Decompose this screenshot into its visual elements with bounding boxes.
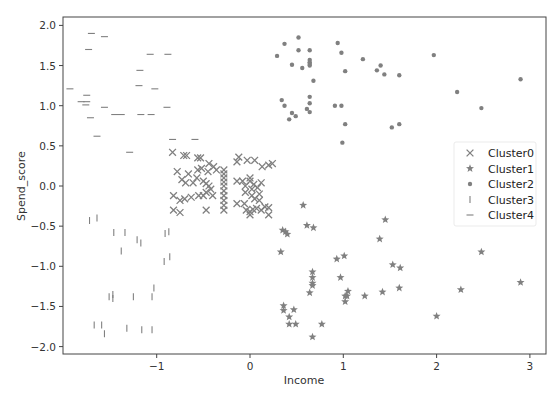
point-cluster2 [308,48,312,52]
point-cluster2 [343,69,347,73]
point-cluster2 [294,114,298,118]
scatter-chart: −10123 −2.0−1.5−1.0−0.50.00.51.01.52.0 I… [0,0,556,397]
point-cluster2 [296,48,300,52]
point-cluster2 [339,104,343,108]
legend: Cluster0Cluster1Cluster2Cluster3Cluster4 [454,142,536,226]
legend-label: Cluster0 [488,147,534,160]
x-axis-label: Income [284,374,325,387]
point-cluster2 [390,125,394,129]
point-cluster2 [308,95,312,99]
point-cluster2 [375,68,379,72]
point-cluster2 [455,90,459,94]
legend-label: Cluster4 [488,209,534,222]
y-tick-label: −0.5 [31,220,57,232]
point-cluster2 [290,63,294,67]
point-cluster2 [308,63,312,67]
point-cluster2 [432,53,436,57]
point-cluster2 [275,54,279,58]
point-cluster2 [339,51,343,55]
x-tick-label: 2 [433,360,440,372]
y-tick-label: −1.0 [31,260,57,272]
y-tick-label: 1.5 [39,60,56,72]
point-cluster2 [280,98,284,102]
cluster2-marker-icon [468,182,472,186]
x-tick-label: 1 [340,360,347,372]
point-cluster2 [282,42,286,46]
point-cluster2 [287,117,291,121]
x-tick-label: 3 [527,360,534,372]
point-cluster2 [290,111,294,115]
x-tick-label: 0 [247,360,254,372]
y-tick-label: −1.5 [31,300,57,312]
x-tick-label: −1 [149,360,164,372]
y-tick-label: 2.0 [39,19,56,31]
legend-label: Cluster3 [488,194,534,207]
legend-label: Cluster2 [488,178,534,191]
y-tick-label: 0.5 [39,140,56,152]
point-cluster2 [518,77,522,81]
point-cluster2 [343,122,347,126]
point-cluster2 [308,101,312,105]
point-cluster2 [479,106,483,110]
point-cluster2 [382,72,386,76]
point-cluster2 [333,104,337,108]
point-cluster2 [300,66,304,70]
point-cluster2 [397,73,401,77]
legend-label: Cluster1 [488,163,534,176]
point-cluster2 [311,79,315,83]
point-cluster2 [336,41,340,45]
point-cluster2 [361,57,365,61]
point-cluster2 [340,140,344,144]
point-cluster2 [397,122,401,126]
y-tick-label: −2.0 [31,341,57,353]
point-cluster2 [378,63,382,67]
point-cluster2 [282,104,286,108]
y-tick-label: 0.0 [39,180,56,192]
y-axis-label: Spend_score [15,151,28,221]
y-tick-label: 1.0 [39,100,56,112]
point-cluster2 [308,110,312,114]
point-cluster2 [296,35,300,39]
